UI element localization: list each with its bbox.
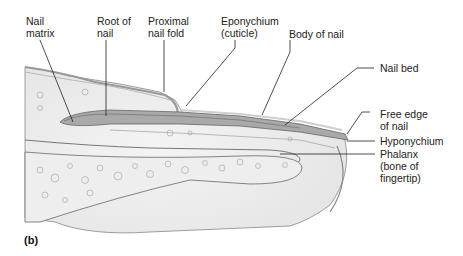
label-hyponychium: Hyponychium	[380, 135, 444, 147]
label-eponychium: Eponychium (cuticle)	[221, 15, 279, 39]
label-nail-bed: Nail bed	[380, 62, 419, 74]
label-phalanx: Phalanx (bone of fingertip)	[380, 148, 421, 184]
label-root-of-nail: Root of nail	[97, 15, 131, 39]
label-nail-matrix: Nail matrix	[26, 15, 55, 39]
nail-anatomy-diagram: Nail matrix Root of nail Proximal nail f…	[0, 0, 463, 256]
label-body-of-nail: Body of nail	[289, 28, 344, 40]
label-free-edge: Free edge of nail	[380, 108, 428, 132]
panel-label: (b)	[24, 234, 38, 246]
label-proximal-nail-fold: Proximal nail fold	[148, 15, 189, 39]
